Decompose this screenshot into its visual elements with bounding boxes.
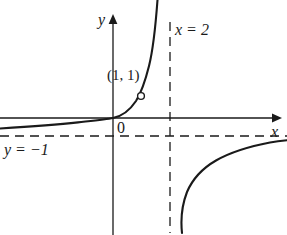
x-axis-arrowhead xyxy=(272,114,282,123)
graph-figure: y x 0 x = 2 y = −1 (1, 1) xyxy=(0,0,287,235)
open-circle-point-marker xyxy=(138,93,145,100)
vertical-asymptote-label: x = 2 xyxy=(175,22,209,38)
curve-left-branch xyxy=(0,0,158,129)
origin-label: 0 xyxy=(117,120,125,136)
curve-right-branch xyxy=(181,140,287,233)
x-axis-label: x xyxy=(271,124,278,140)
y-axis-arrowhead xyxy=(109,14,118,24)
horizontal-asymptote-label: y = −1 xyxy=(4,142,49,158)
point-coordinate-label: (1, 1) xyxy=(107,68,140,83)
x-axis xyxy=(0,114,282,123)
graph-canvas xyxy=(0,0,287,235)
y-axis-label: y xyxy=(98,12,105,28)
